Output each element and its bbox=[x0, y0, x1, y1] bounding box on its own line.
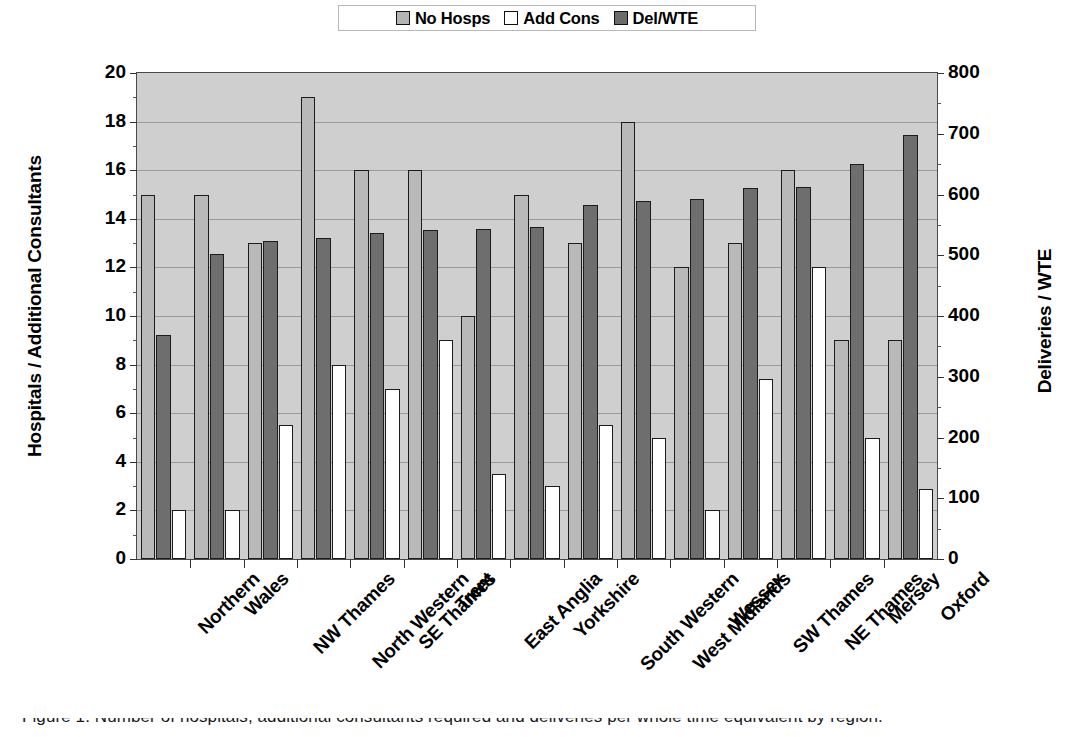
bar-no-hosps bbox=[248, 243, 263, 559]
bar-del-wte bbox=[743, 188, 758, 559]
bar-del-wte bbox=[476, 229, 491, 559]
bar-add-cons bbox=[279, 425, 294, 559]
bar-del-wte bbox=[796, 187, 811, 559]
bar-group bbox=[830, 73, 883, 559]
bar-group bbox=[670, 73, 723, 559]
y-axis-right-minor-tick bbox=[937, 407, 941, 408]
y-axis-right-minor-tick bbox=[937, 103, 941, 104]
bar-add-cons bbox=[599, 425, 614, 559]
y-axis-left-tick bbox=[130, 365, 137, 366]
bar-no-hosps bbox=[888, 340, 903, 559]
bar-del-wte bbox=[903, 135, 918, 559]
bar-no-hosps bbox=[408, 170, 423, 559]
bar-add-cons bbox=[385, 389, 400, 559]
bar-del-wte bbox=[690, 199, 705, 559]
y-axis-right-minor-tick bbox=[937, 225, 941, 226]
bar-no-hosps bbox=[141, 195, 156, 560]
x-axis-category-labels: NorthernWalesNW ThamesNorth WesternSE Th… bbox=[0, 558, 1092, 708]
y-axis-left-tick bbox=[130, 462, 137, 463]
bar-no-hosps bbox=[194, 195, 209, 560]
bar-add-cons bbox=[919, 489, 934, 559]
y-axis-left-tick bbox=[130, 73, 137, 74]
y-axis-right-minor-tick bbox=[937, 286, 941, 287]
bar-del-wte bbox=[316, 238, 331, 559]
bar-group bbox=[404, 73, 457, 559]
y-axis-right-tick bbox=[937, 73, 944, 74]
bar-group bbox=[297, 73, 350, 559]
y-axis-right-tick bbox=[937, 438, 944, 439]
y-axis-left-tick bbox=[130, 267, 137, 268]
bar-no-hosps bbox=[301, 97, 316, 559]
bar-add-cons bbox=[545, 486, 560, 559]
bar-group bbox=[137, 73, 190, 559]
y-axis-left-tick bbox=[130, 170, 137, 171]
y-axis-right-tick bbox=[937, 498, 944, 499]
bar-add-cons bbox=[812, 267, 827, 559]
bar-del-wte bbox=[583, 205, 598, 559]
bar-group bbox=[777, 73, 830, 559]
bar-del-wte bbox=[210, 254, 225, 559]
bar-no-hosps bbox=[461, 316, 476, 559]
y-axis-left-tick bbox=[130, 316, 137, 317]
y-axis-right-minor-tick bbox=[937, 468, 941, 469]
bar-del-wte bbox=[370, 233, 385, 559]
bar-no-hosps bbox=[781, 170, 796, 559]
bar-no-hosps bbox=[354, 170, 369, 559]
bar-no-hosps bbox=[674, 267, 689, 559]
bar-add-cons bbox=[225, 510, 240, 559]
y-axis-left-tick bbox=[130, 122, 137, 123]
bar-add-cons bbox=[439, 340, 454, 559]
x-axis-category-label: Oxford bbox=[936, 568, 994, 626]
bar-group bbox=[884, 73, 937, 559]
y-axis-right-minor-tick bbox=[937, 164, 941, 165]
bar-no-hosps bbox=[728, 243, 743, 559]
bar-no-hosps bbox=[568, 243, 583, 559]
y-axis-right-tick bbox=[937, 195, 944, 196]
bar-no-hosps bbox=[621, 122, 636, 559]
y-axis-left-tick bbox=[130, 413, 137, 414]
y-axis-right-tick bbox=[937, 255, 944, 256]
bar-del-wte bbox=[156, 335, 171, 559]
bar-group bbox=[564, 73, 617, 559]
bar-add-cons bbox=[492, 474, 507, 559]
bar-no-hosps bbox=[514, 195, 529, 560]
y-axis-left-tick bbox=[130, 510, 137, 511]
bar-group bbox=[190, 73, 243, 559]
bar-add-cons bbox=[865, 438, 880, 560]
y-axis-left-tick bbox=[130, 219, 137, 220]
chart-plot-area bbox=[136, 72, 938, 560]
figure-caption-text: Figure 1. Number of hospitals, additiona… bbox=[22, 718, 1072, 727]
bar-group bbox=[724, 73, 777, 559]
bar-del-wte bbox=[263, 241, 278, 559]
y-axis-right-tick bbox=[937, 134, 944, 135]
bar-add-cons bbox=[705, 510, 720, 559]
bar-no-hosps bbox=[834, 340, 849, 559]
bar-del-wte bbox=[530, 227, 545, 559]
bar-group bbox=[350, 73, 403, 559]
bar-group bbox=[457, 73, 510, 559]
bar-del-wte bbox=[423, 230, 438, 559]
bar-add-cons bbox=[332, 365, 347, 559]
bar-group bbox=[617, 73, 670, 559]
bar-group bbox=[244, 73, 297, 559]
bar-add-cons bbox=[652, 438, 667, 560]
y-axis-right-tick bbox=[937, 377, 944, 378]
y-axis-right-minor-tick bbox=[937, 529, 941, 530]
y-axis-right-minor-tick bbox=[937, 346, 941, 347]
figure-caption: Figure 1. Number of hospitals, additiona… bbox=[22, 718, 1072, 737]
bar-group bbox=[510, 73, 563, 559]
bar-del-wte bbox=[636, 201, 651, 559]
bar-add-cons bbox=[759, 379, 774, 559]
y-axis-right-tick bbox=[937, 316, 944, 317]
bar-add-cons bbox=[172, 510, 187, 559]
bar-del-wte bbox=[850, 164, 865, 559]
